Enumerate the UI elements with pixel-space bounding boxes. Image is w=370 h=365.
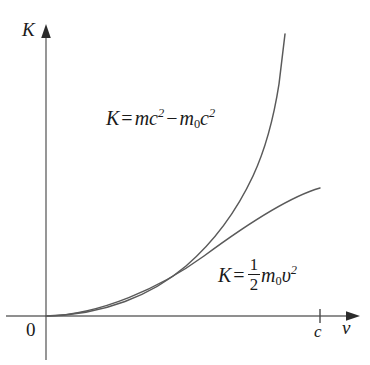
equation-classical-lhs: K	[218, 264, 231, 286]
fraction-denominator: 2	[248, 276, 260, 293]
equation-relativistic-term2-m: m	[179, 107, 193, 129]
equation-relativistic-term2-c: c	[200, 107, 209, 129]
equation-classical-exponent: 2	[291, 263, 297, 277]
equation-relativistic-term2-exponent: 2	[209, 106, 215, 120]
equation-classical: K=12m0υ2	[218, 256, 297, 293]
minus-sign: −	[164, 107, 179, 129]
equation-classical-velocity: υ	[282, 264, 291, 286]
equals-sign: =	[119, 107, 134, 129]
x-tick-label-c: c	[314, 323, 322, 340]
fraction-numerator: 1	[248, 256, 260, 273]
x-axis-label: v	[342, 318, 350, 337]
equation-relativistic-lhs: K	[106, 107, 119, 129]
one-half-fraction: 12	[248, 256, 260, 293]
y-axis-arrowhead	[41, 24, 51, 38]
equation-classical-mass: m	[261, 264, 275, 286]
classical-curve	[46, 188, 320, 316]
plot-canvas	[0, 0, 370, 365]
kinetic-energy-figure: K v c 0 K=mc2−m0c2 K=12m0υ2	[0, 0, 370, 365]
equals-sign: =	[231, 264, 246, 286]
equation-relativistic-term1: mc	[135, 107, 158, 129]
origin-label: 0	[26, 320, 36, 339]
equation-relativistic: K=mc2−m0c2	[106, 108, 215, 128]
y-axis-label: K	[22, 20, 35, 39]
